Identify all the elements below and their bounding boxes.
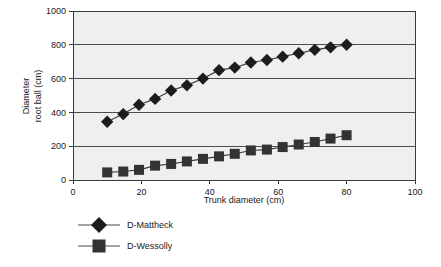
data-point-marker bbox=[150, 161, 160, 171]
data-point-marker bbox=[166, 159, 176, 169]
legend-label: D-Wessolly bbox=[127, 241, 173, 251]
data-point-marker bbox=[246, 145, 256, 155]
y-tick-label-1000: 1000 bbox=[46, 6, 66, 16]
data-point-marker bbox=[118, 167, 128, 177]
y-tick-label-200: 200 bbox=[51, 141, 66, 151]
x-tick-label-80: 80 bbox=[342, 187, 352, 197]
data-point-marker bbox=[230, 149, 240, 159]
data-point-marker bbox=[326, 134, 336, 144]
legend-marker-square-icon bbox=[93, 240, 106, 253]
y-axis-title-line1: Diameter bbox=[21, 78, 31, 115]
data-point-marker bbox=[278, 142, 288, 152]
y-tick-label-600: 600 bbox=[51, 74, 66, 84]
x-tick-label-0: 0 bbox=[70, 187, 75, 197]
data-point-marker bbox=[182, 156, 192, 166]
data-point-marker bbox=[294, 140, 304, 150]
plot-area-background bbox=[73, 11, 415, 180]
y-tick-label-400: 400 bbox=[51, 108, 66, 118]
data-point-marker bbox=[310, 137, 320, 147]
scatter-line-chart: 02004006008001000 020406080100 Trunk dia… bbox=[0, 0, 441, 267]
chart-figure: 02004006008001000 020406080100 Trunk dia… bbox=[0, 0, 441, 267]
data-point-marker bbox=[134, 165, 144, 175]
y-tick-label-800: 800 bbox=[51, 40, 66, 50]
data-point-marker bbox=[198, 154, 208, 164]
legend-label: D-Mattheck bbox=[127, 220, 174, 230]
y-tick-label-0: 0 bbox=[61, 175, 66, 185]
data-point-marker bbox=[102, 167, 112, 177]
x-tick-label-20: 20 bbox=[136, 187, 146, 197]
y-axis-title-line2: root ball (cm) bbox=[33, 70, 43, 123]
data-point-marker bbox=[262, 145, 272, 155]
x-axis-title: Trunk diameter (cm) bbox=[204, 195, 285, 205]
data-point-marker bbox=[342, 130, 352, 140]
x-tick-label-100: 100 bbox=[407, 187, 422, 197]
data-point-marker bbox=[214, 151, 224, 161]
